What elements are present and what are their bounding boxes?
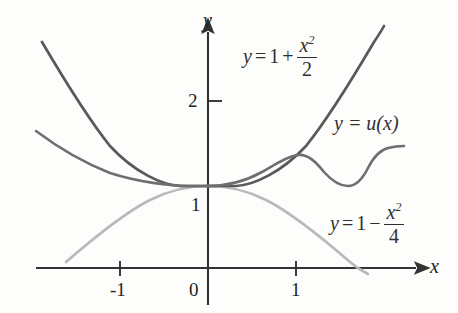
y-tick-label-1: 1: [191, 195, 201, 214]
curve-u-of-x: [36, 131, 404, 186]
label-upper-numerator: x: [299, 34, 308, 56]
label-upper-fraction: x22: [297, 35, 316, 80]
graph-canvas: [0, 0, 458, 313]
label-lower-equals: =: [339, 212, 356, 234]
curve-upper-parabola: [42, 26, 384, 186]
label-upper-curve: y=1+x22: [243, 36, 318, 81]
x-tick-label--1: -1: [110, 280, 126, 299]
label-upper-one: 1: [269, 45, 279, 67]
label-middle-curve: y = u(x): [334, 113, 399, 133]
label-upper-equals: =: [252, 45, 269, 67]
x-tick-label-0: 0: [189, 280, 199, 299]
label-lower-denominator: 4: [384, 225, 403, 247]
label-lower-minus: −: [366, 212, 383, 234]
label-lower-y: y: [330, 212, 339, 234]
label-lower-one: 1: [356, 212, 366, 234]
label-lower-exponent: 2: [395, 200, 401, 214]
label-lower-curve: y=1−x24: [330, 203, 405, 248]
curve-lower-parabola: [66, 186, 368, 274]
label-upper-plus: +: [279, 45, 296, 67]
label-lower-fraction: x24: [384, 202, 403, 247]
label-upper-denominator: 2: [297, 58, 316, 80]
label-upper-y: y: [243, 45, 252, 67]
label-lower-numerator: x: [386, 201, 395, 223]
x-axis-label: x: [430, 256, 439, 276]
label-upper-exponent: 2: [308, 33, 314, 47]
y-axis-label: y: [203, 10, 212, 30]
y-tick-label-2: 2: [188, 91, 198, 110]
x-tick-label-1: 1: [291, 280, 301, 299]
math-figure: y x -1 0 1 1 2 y=1+x22 y = u(x) y=1−x24: [0, 0, 458, 313]
